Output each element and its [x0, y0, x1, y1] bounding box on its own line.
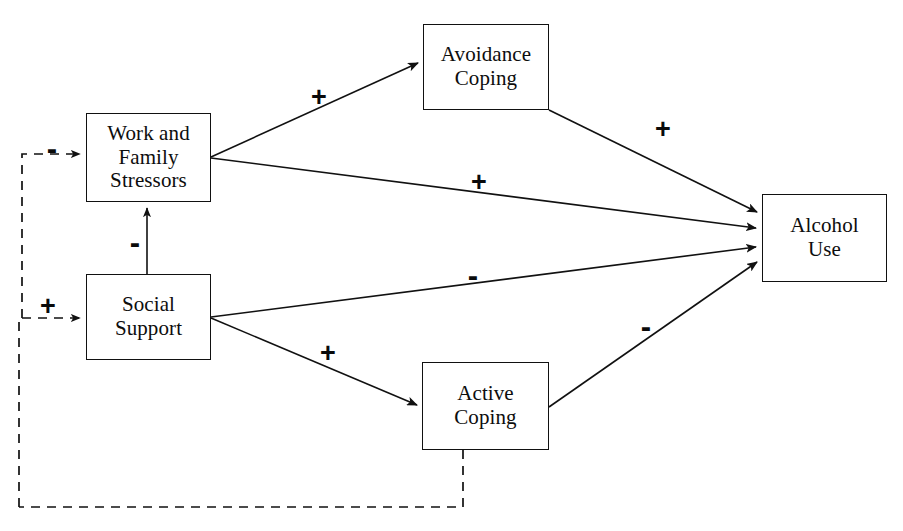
edge-active-to-alcohol — [549, 262, 757, 407]
sign-stressors-to-alcohol: + — [471, 169, 487, 196]
node-label-avoidance-coping: Avoidance Coping — [439, 43, 533, 91]
node-label-work-family-stressors: Work and Family Stressors — [105, 122, 192, 194]
node-label-alcohol-use: Alcohol Use — [788, 214, 860, 262]
path-diagram: Work and Family Stressors Social Support… — [0, 0, 903, 531]
sign-stressors-to-avoidance: + — [311, 84, 327, 111]
edge-active-coping-feedback — [19, 450, 463, 507]
sign-feedback-to-support: + — [40, 293, 56, 320]
edge-support-to-active — [211, 318, 417, 405]
node-label-social-support: Social Support — [113, 293, 184, 341]
edge-feedback-to-support — [19, 318, 80, 507]
sign-feedback-to-stressors: - — [47, 133, 57, 164]
sign-avoidance-to-alcohol: + — [655, 116, 671, 143]
sign-support-to-active: + — [320, 340, 336, 367]
sign-support-to-alcohol: - — [468, 260, 478, 291]
edge-support-to-alcohol — [211, 247, 756, 317]
sign-active-to-alcohol: - — [641, 311, 651, 342]
edge-avoidance-to-alcohol — [549, 110, 757, 212]
node-social-support[interactable]: Social Support — [86, 274, 211, 360]
node-active-coping[interactable]: Active Coping — [422, 362, 549, 450]
node-avoidance-coping[interactable]: Avoidance Coping — [423, 24, 549, 110]
node-work-family-stressors[interactable]: Work and Family Stressors — [86, 113, 211, 202]
sign-support-to-stressors: - — [130, 227, 140, 258]
node-label-active-coping: Active Coping — [452, 382, 518, 430]
node-alcohol-use[interactable]: Alcohol Use — [762, 194, 887, 282]
